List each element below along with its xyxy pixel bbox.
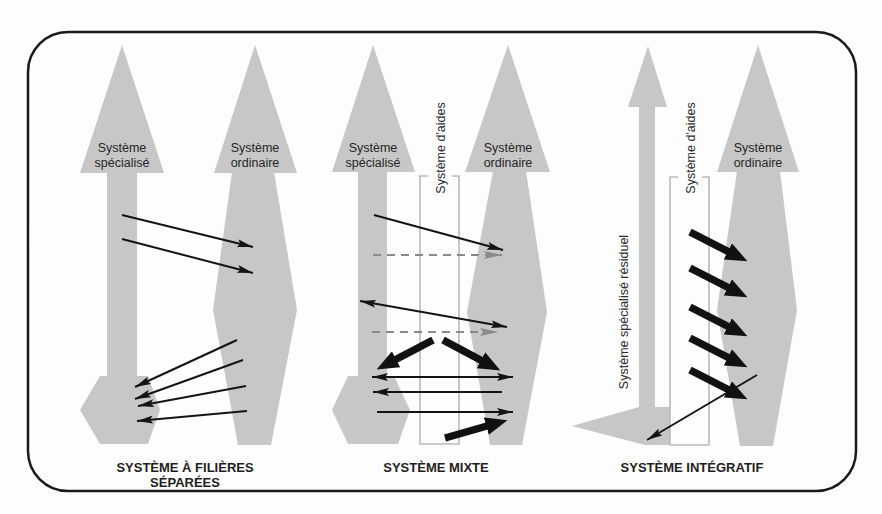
specialized-system-shape	[332, 45, 415, 444]
ordinary-label-line1: Système	[484, 141, 533, 155]
thick-arrow-to-specialized	[389, 340, 433, 363]
specialized-label-line2: spécialisé	[95, 156, 150, 170]
panel-integrative-system: Système d'aides Système spécialisé résid…	[572, 45, 799, 475]
ordinary-label-line1: Système	[734, 141, 783, 155]
specialized-system-shape	[80, 45, 164, 444]
ordinary-system-body	[467, 171, 547, 445]
ordinary-label-line2: ordinaire	[484, 156, 533, 170]
panel-title-line1: SYSTÈME À FILIÈRES	[116, 460, 254, 475]
specialized-label-line2: spécialisé	[346, 156, 401, 170]
aids-system-box	[420, 176, 459, 444]
aids-system-label: Système d'aides	[434, 102, 448, 193]
ordinary-label-line2: ordinaire	[734, 156, 783, 170]
residual-specialized-label: Système spécialisé résiduel	[617, 235, 631, 389]
specialized-label-line1: Système	[349, 141, 398, 155]
panel-title: SYSTÈME INTÉGRATIF	[621, 460, 764, 475]
panel-title-line2: SÉPARÉES	[150, 475, 220, 490]
ordinary-system-body	[213, 172, 297, 445]
ordinary-label-line2: ordinaire	[231, 156, 280, 170]
panel-mixed-system: Système d'aides Système spécialisé Systè…	[332, 45, 550, 475]
aids-system-label: Système d'aides	[684, 102, 698, 193]
inclusion-systems-diagram: Système spécialisé Système ordinaire SYS…	[0, 0, 882, 514]
thick-arrow-aids-to-ordinary	[445, 424, 494, 438]
ordinary-system-body	[717, 171, 797, 446]
panel-separate-tracks: Système spécialisé Système ordinaire SYS…	[80, 45, 297, 490]
ordinary-label-line1: Système	[231, 141, 280, 155]
panel-title: SYSTÈME MIXTE	[383, 460, 489, 475]
specialized-label-line1: Système	[98, 141, 147, 155]
